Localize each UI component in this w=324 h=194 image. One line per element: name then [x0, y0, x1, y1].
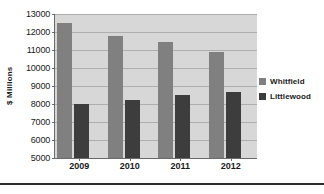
- y-axis-tick-label: 8000: [31, 99, 50, 109]
- bar-whitfield-2012: [209, 52, 224, 158]
- y-axis-tick-label: 6000: [31, 135, 50, 145]
- bar-group: [156, 14, 207, 158]
- legend-label: Littlewood: [270, 92, 311, 101]
- y-axis-tick-labels: 5000600070008000900010000110001200013000: [16, 8, 52, 164]
- x-axis-tick-labels: 2009201020112012: [54, 161, 257, 177]
- bar-whitfield-2011: [158, 42, 173, 158]
- bar-whitfield-2009: [57, 23, 72, 158]
- bar-group: [55, 14, 106, 158]
- legend-item-whitfield[interactable]: Whitfield: [259, 76, 321, 86]
- y-axis-tick-label: 12000: [26, 27, 50, 37]
- y-axis-tick-label: 5000: [31, 153, 50, 163]
- plot-area: [54, 14, 257, 159]
- bar-group: [207, 14, 258, 158]
- legend-swatch-icon: [259, 78, 266, 85]
- bar-littlewood-2009: [74, 104, 89, 158]
- chart-legend: WhitfieldLittlewood: [259, 76, 321, 106]
- bar-littlewood-2010: [125, 100, 140, 158]
- y-axis-tick-label: 7000: [31, 117, 50, 127]
- y-axis-tick-label: 13000: [26, 9, 50, 19]
- bar-littlewood-2012: [226, 92, 241, 158]
- legend-swatch-icon: [259, 93, 266, 100]
- y-axis-tick-label: 9000: [31, 81, 50, 91]
- bar-littlewood-2011: [175, 95, 190, 158]
- bar-whitfield-2010: [108, 36, 123, 158]
- y-axis-tick-label: 10000: [26, 63, 50, 73]
- x-axis-tick-label: 2009: [69, 161, 89, 171]
- y-axis-title: $ Millions: [2, 46, 16, 126]
- legend-label: Whitfield: [270, 77, 305, 86]
- bar-chart-figure: $ Millions 50006000700080009000100001100…: [0, 0, 324, 194]
- x-axis-tick-label: 2011: [170, 161, 190, 171]
- y-axis-tick-label: 11000: [27, 45, 50, 55]
- y-axis-tick-mark: [52, 158, 55, 159]
- x-axis-tick-label: 2010: [120, 161, 140, 171]
- bar-group: [106, 14, 157, 158]
- x-axis-tick-label: 2012: [221, 161, 241, 171]
- legend-item-littlewood[interactable]: Littlewood: [259, 91, 321, 101]
- page-divider-rule: [0, 183, 324, 185]
